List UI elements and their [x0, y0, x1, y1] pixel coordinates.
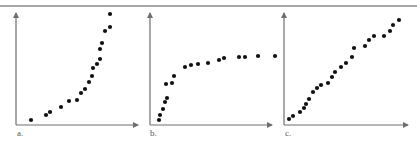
data-point	[344, 61, 348, 65]
data-point	[350, 55, 354, 59]
data-point	[302, 106, 306, 110]
data-point	[291, 114, 295, 118]
data-point	[326, 81, 330, 85]
data-point	[108, 12, 112, 16]
data-point	[75, 98, 79, 102]
data-point	[367, 38, 371, 42]
data-point	[304, 102, 308, 106]
data-point	[29, 118, 33, 122]
data-point	[243, 55, 247, 59]
data-point	[100, 41, 104, 45]
panel-a-label: a.	[17, 129, 23, 138]
data-point	[163, 100, 167, 104]
data-point	[217, 58, 221, 62]
data-point	[397, 18, 401, 22]
data-point	[157, 118, 161, 122]
data-point	[87, 80, 91, 84]
scatter-panel-c	[284, 13, 408, 125]
data-point	[333, 70, 337, 74]
data-point	[90, 74, 94, 78]
data-point	[170, 81, 174, 85]
data-point	[103, 29, 107, 33]
panel-b-label: b.	[150, 129, 157, 138]
data-point	[161, 107, 165, 111]
data-point	[298, 110, 302, 114]
data-point	[372, 34, 376, 38]
scatter-panel-a	[16, 12, 138, 125]
data-point	[98, 57, 102, 61]
data-point	[165, 96, 169, 100]
data-point	[222, 56, 226, 60]
data-point	[307, 97, 311, 101]
data-point	[273, 54, 277, 58]
data-point	[98, 47, 102, 51]
data-point	[315, 86, 319, 90]
data-point	[237, 55, 241, 59]
data-point	[48, 110, 52, 114]
data-point	[91, 66, 95, 70]
data-point	[44, 113, 48, 117]
data-point	[183, 65, 187, 69]
data-point	[206, 61, 210, 65]
data-point	[352, 46, 356, 50]
data-point	[391, 23, 395, 27]
data-point	[83, 87, 87, 91]
data-point	[172, 74, 176, 78]
data-point	[388, 29, 392, 33]
data-point	[59, 105, 63, 109]
data-point	[319, 83, 323, 87]
panel-c-label: c.	[285, 129, 291, 138]
figure-canvas	[0, 0, 417, 147]
data-point	[164, 82, 168, 86]
data-point	[339, 65, 343, 69]
data-point	[382, 34, 386, 38]
data-point	[196, 62, 200, 66]
data-point	[330, 75, 334, 79]
data-point	[311, 90, 315, 94]
scatter-figure: a. b. c.	[0, 0, 417, 147]
data-point	[108, 25, 112, 29]
data-point	[158, 113, 162, 117]
data-point	[95, 62, 99, 66]
scatter-panel-b	[150, 13, 277, 125]
data-point	[67, 99, 71, 103]
data-point	[287, 117, 291, 121]
data-point	[189, 63, 193, 67]
data-point	[363, 44, 367, 48]
data-point	[256, 54, 260, 58]
data-point	[79, 91, 83, 95]
